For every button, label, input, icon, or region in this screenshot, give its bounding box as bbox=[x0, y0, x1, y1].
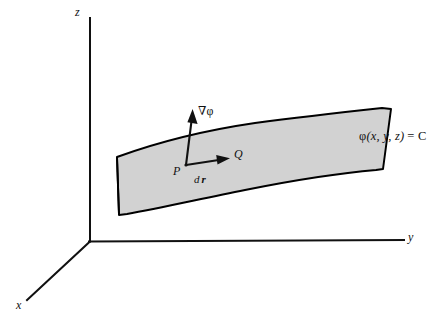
level-surface-group bbox=[117, 108, 391, 215]
diagram-canvas bbox=[0, 0, 447, 321]
surface-equation-label: φ(x, y, z)= C bbox=[359, 130, 426, 143]
z-axis-label: z bbox=[75, 6, 80, 18]
gradient-vector-label: ∇φ bbox=[198, 105, 213, 117]
x-axis-line bbox=[27, 242, 90, 301]
figure-caption bbox=[6, 310, 447, 321]
displacement-label-d: d bbox=[194, 173, 200, 185]
gradient-vector-arrowhead bbox=[187, 109, 197, 124]
point-p-group bbox=[184, 163, 187, 166]
point-p-marker bbox=[184, 163, 187, 166]
y-axis-line bbox=[89, 240, 404, 242]
y-axis-label: y bbox=[408, 231, 413, 243]
figure-root: z y x ∇φ P Q dr φ(x, y, z)= C bbox=[0, 0, 447, 321]
displacement-vector-label: dr bbox=[194, 174, 206, 185]
level-surface-shape bbox=[117, 108, 391, 215]
surface-equation-args: (x, y, z) bbox=[366, 129, 404, 143]
surface-equation-rhs: = C bbox=[407, 129, 426, 143]
point-p-label: P bbox=[173, 165, 180, 177]
point-q-label: Q bbox=[234, 148, 243, 160]
displacement-label-r: r bbox=[202, 173, 206, 185]
